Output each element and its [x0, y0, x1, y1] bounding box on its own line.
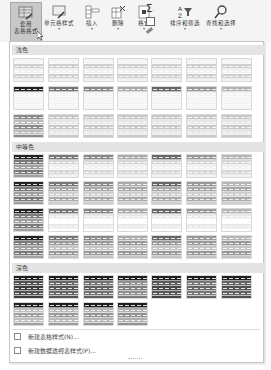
table-style-thumbnail[interactable]	[83, 208, 114, 232]
table-style-thumbnail[interactable]	[48, 181, 79, 205]
table-style-thumbnail[interactable]	[117, 235, 148, 259]
chevron-down-icon: ▾	[143, 27, 145, 31]
delete-icon	[109, 4, 127, 20]
table-style-thumbnail[interactable]	[151, 275, 182, 299]
table-style-thumbnail[interactable]	[151, 235, 182, 259]
sort-filter-icon: AZ	[176, 4, 194, 20]
table-style-thumbnail[interactable]	[83, 58, 114, 82]
table-style-thumbnail[interactable]	[186, 275, 217, 299]
table-style-thumbnail[interactable]	[117, 86, 148, 110]
table-style-thumbnail[interactable]	[13, 181, 44, 205]
table-style-thumbnail[interactable]	[221, 235, 252, 259]
table-style-thumbnail[interactable]	[83, 154, 114, 178]
table-style-thumbnail[interactable]	[186, 181, 217, 205]
table-style-thumbnail[interactable]	[151, 181, 182, 205]
clear-button[interactable]	[146, 27, 153, 34]
table-style-thumbnail[interactable]	[221, 86, 252, 110]
sort-filter-button[interactable]: AZ 排序和筛选 ▾	[168, 2, 202, 40]
table-style-thumbnail[interactable]	[186, 86, 217, 110]
table-style-thumbnail[interactable]	[186, 235, 217, 259]
table-style-thumbnail[interactable]	[48, 208, 79, 232]
new-pivot-style-label: 新建数据透视表样式(P)...	[28, 346, 96, 355]
table-style-thumbnail[interactable]	[186, 114, 217, 138]
delete-button[interactable]: 删除 ▾	[106, 2, 130, 40]
editing-small-buttons: Σ·	[146, 3, 164, 39]
table-style-thumbnail[interactable]	[83, 86, 114, 110]
chevron-down-icon: ▾	[91, 27, 93, 31]
insert-icon	[83, 4, 101, 20]
table-style-thumbnail[interactable]	[151, 86, 182, 110]
table-style-thumbnail[interactable]	[186, 58, 217, 82]
chevron-down-icon: ▾	[117, 27, 119, 31]
new-pivot-style-menu-item[interactable]: 新建数据透视表样式(P)...	[14, 344, 96, 357]
table-style-thumbnail[interactable]	[117, 208, 148, 232]
table-style-thumbnail[interactable]	[13, 208, 44, 232]
new-table-style-icon	[14, 333, 21, 340]
table-style-thumbnail[interactable]	[83, 302, 114, 326]
table-style-thumbnail[interactable]	[221, 181, 252, 205]
table-style-thumbnail[interactable]	[221, 114, 252, 138]
table-style-thumbnail[interactable]	[151, 208, 182, 232]
section-header-light: 浅色	[12, 45, 264, 55]
table-style-thumbnail[interactable]	[186, 208, 217, 232]
cell-style-button[interactable]: 单元格样式 ▾	[42, 2, 76, 40]
ribbon: 套用 表格格式 单元格样式 ▾ 插入 ▾ 删除 ▾ 格式 ▾	[0, 0, 271, 42]
table-style-thumbnail[interactable]	[13, 302, 44, 326]
find-select-button[interactable]: 查找和选择 ▾	[204, 2, 238, 40]
format-as-table-label-1: 套用	[20, 21, 32, 28]
table-style-thumbnail[interactable]	[13, 154, 44, 178]
svg-text:Z: Z	[178, 12, 182, 19]
table-style-thumbnail[interactable]	[48, 114, 79, 138]
table-style-thumbnail[interactable]	[151, 154, 182, 178]
table-style-thumbnail[interactable]	[13, 114, 44, 138]
table-style-gallery: 浅色 中等色 深色 新建表格样式(N)... 新建数据透视表样式(P)...	[9, 41, 264, 363]
table-style-thumbnail[interactable]	[48, 86, 79, 110]
table-style-thumbnail[interactable]	[117, 302, 148, 326]
svg-text:A: A	[178, 5, 183, 12]
table-style-thumbnail[interactable]	[48, 58, 79, 82]
table-style-thumbnail[interactable]	[48, 302, 79, 326]
chevron-down-icon: ▾	[184, 27, 186, 31]
table-style-thumbnail[interactable]	[117, 58, 148, 82]
table-style-thumbnail[interactable]	[13, 275, 44, 299]
table-style-thumbnail[interactable]	[48, 235, 79, 259]
table-style-thumbnail[interactable]	[221, 154, 252, 178]
chevron-down-icon: ▾	[220, 27, 222, 31]
table-style-thumbnail[interactable]	[221, 275, 252, 299]
new-pivot-style-icon	[14, 347, 21, 354]
table-style-thumbnail[interactable]	[151, 58, 182, 82]
table-style-thumbnail[interactable]	[48, 275, 79, 299]
table-style-thumbnail[interactable]	[83, 235, 114, 259]
table-style-thumbnail[interactable]	[83, 275, 114, 299]
table-style-thumbnail[interactable]	[13, 235, 44, 259]
format-as-table-label-2: 表格格式	[14, 28, 38, 35]
section-header-dark: 深色	[12, 263, 264, 273]
resize-grip[interactable]	[128, 358, 142, 361]
table-style-thumbnail[interactable]	[117, 181, 148, 205]
table-style-thumbnail[interactable]	[117, 154, 148, 178]
insert-button[interactable]: 插入 ▾	[80, 2, 104, 40]
table-style-thumbnail[interactable]	[13, 86, 44, 110]
table-style-thumbnail[interactable]	[117, 275, 148, 299]
table-format-icon	[17, 5, 35, 21]
new-table-style-menu-item[interactable]: 新建表格样式(N)...	[14, 330, 79, 343]
background-area	[263, 42, 271, 370]
cell-style-icon	[50, 4, 68, 20]
chevron-down-icon: ▾	[58, 27, 60, 31]
autosum-button[interactable]: Σ·	[146, 3, 164, 16]
table-style-thumbnail[interactable]	[221, 58, 252, 82]
table-style-thumbnail[interactable]	[83, 114, 114, 138]
table-style-thumbnail[interactable]	[48, 154, 79, 178]
search-icon	[212, 4, 230, 20]
table-style-thumbnail[interactable]	[186, 154, 217, 178]
chevron-down-icon: ·	[152, 7, 154, 13]
table-style-thumbnail[interactable]	[151, 114, 182, 138]
table-style-thumbnail[interactable]	[13, 58, 44, 82]
fill-button[interactable]	[146, 17, 155, 26]
table-style-thumbnail[interactable]	[221, 208, 252, 232]
section-header-medium: 中等色	[12, 142, 264, 152]
table-style-thumbnail[interactable]	[117, 114, 148, 138]
new-table-style-label: 新建表格样式(N)...	[28, 332, 79, 341]
table-style-thumbnail[interactable]	[83, 181, 114, 205]
